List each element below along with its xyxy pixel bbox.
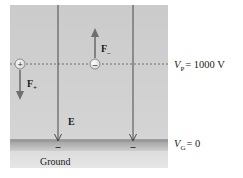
plane-potential-label: VP= 1000 V [174,59,225,73]
electric-field-diagram: – – + F+ – F– E Ground VP= 1000 V VG= 0 [0,0,243,178]
field-label: E [68,116,75,127]
ground-potential-label: VG= 0 [174,138,200,152]
ground-label: Ground [40,156,71,167]
negative-charge: – [90,59,100,69]
svg-text:+: + [17,59,22,69]
ground-charge-sign: – [130,141,137,152]
positive-charge: + [15,59,25,69]
svg-text:–: – [92,59,98,69]
ground-charge-sign: – [55,141,62,152]
